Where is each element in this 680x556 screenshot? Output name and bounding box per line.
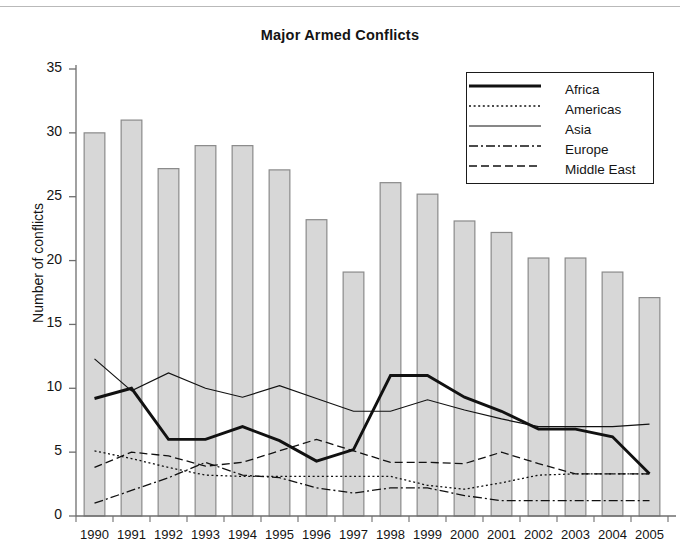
bar	[528, 258, 549, 516]
bar	[565, 258, 586, 516]
y-tick-label: 10	[28, 378, 62, 394]
bar	[84, 133, 105, 516]
legend-item-asia[interactable]: Asia	[467, 119, 653, 139]
bar	[417, 194, 438, 516]
legend-line-sample	[479, 102, 555, 116]
y-tick-label: 0	[28, 506, 62, 522]
legend-label: Americas	[565, 102, 621, 117]
bar	[380, 183, 401, 516]
bar	[158, 169, 179, 516]
legend-item-africa[interactable]: Africa	[467, 79, 653, 99]
y-tick-label: 35	[28, 59, 62, 75]
legend-line-sample	[479, 162, 555, 176]
chart-container: Major Armed Conflicts Number of conflict…	[0, 0, 680, 556]
bar	[269, 170, 290, 516]
bar	[454, 221, 475, 516]
legend-line-sample	[479, 142, 555, 156]
bar	[195, 146, 216, 516]
bar	[306, 220, 327, 516]
bar	[491, 232, 512, 516]
legend-item-europe[interactable]: Europe	[467, 139, 653, 159]
bar	[602, 272, 623, 516]
y-tick-label: 30	[28, 123, 62, 139]
legend-label: Asia	[565, 122, 591, 137]
legend-label: Europe	[565, 142, 609, 157]
legend: AfricaAmericasAsiaEuropeMiddle East	[466, 72, 654, 184]
y-tick-label: 25	[28, 187, 62, 203]
legend-label: Africa	[565, 82, 600, 97]
x-tick-label: 2005	[627, 527, 673, 542]
bar	[121, 120, 142, 516]
legend-label: Middle East	[565, 162, 636, 177]
legend-line-sample	[479, 122, 555, 136]
bar	[639, 298, 660, 516]
y-tick-label: 5	[28, 442, 62, 458]
bar	[343, 272, 364, 516]
legend-item-americas[interactable]: Americas	[467, 99, 653, 119]
y-tick-label: 20	[28, 251, 62, 267]
legend-line-sample	[479, 82, 555, 96]
legend-item-middle-east[interactable]: Middle East	[467, 159, 653, 179]
y-tick-label: 15	[28, 314, 62, 330]
